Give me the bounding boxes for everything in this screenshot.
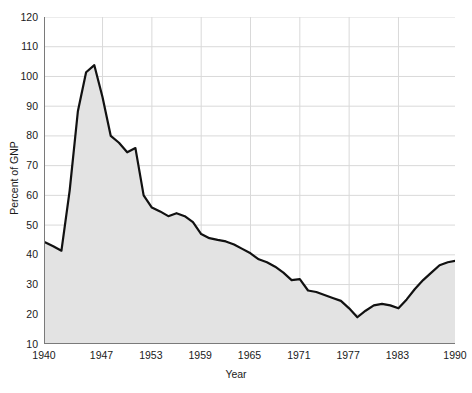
x-axis-tick-label: 1953	[139, 350, 162, 361]
x-axis-tick-label: 1965	[238, 350, 261, 361]
y-axis-title: Percent of GNP	[8, 118, 20, 238]
y-axis-tick-label: 110	[4, 41, 38, 52]
y-axis-tick-label: 100	[4, 71, 38, 82]
y-axis-tick-label: 40	[4, 249, 38, 260]
x-axis-tick-label: 1990	[443, 350, 466, 361]
plot-svg	[45, 17, 455, 344]
y-axis-tick-label: 30	[4, 279, 38, 290]
x-axis-tick-labels: 194019471953195919651971197719831990	[0, 350, 472, 366]
y-axis-tick-label: 10	[4, 339, 38, 350]
x-axis-tick-label: 1947	[90, 350, 113, 361]
plot-area	[44, 17, 455, 344]
y-axis-tick-label: 120	[4, 12, 38, 23]
x-axis-tick-label: 1940	[32, 350, 55, 361]
x-axis-tick-label: 1971	[287, 350, 310, 361]
x-axis-tick-label: 1959	[188, 350, 211, 361]
x-axis-tick-label: 1983	[386, 350, 409, 361]
y-axis-tick-label: 20	[4, 309, 38, 320]
y-axis-tick-label: 90	[4, 101, 38, 112]
x-axis-title: Year	[0, 368, 472, 380]
chart-container: 102030405060708090100110120 194019471953…	[0, 0, 472, 393]
x-axis-tick-label: 1977	[336, 350, 359, 361]
